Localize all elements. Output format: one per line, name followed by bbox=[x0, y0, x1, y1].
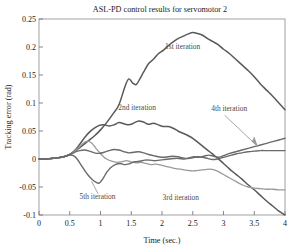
x-axis-label: Time (sec.) bbox=[144, 236, 181, 245]
x-tick-label: 2.5 bbox=[188, 219, 198, 228]
x-tick-label: 4 bbox=[283, 219, 287, 228]
annotation-3rd-iteration: 3rd iteration bbox=[163, 193, 200, 202]
annotation-1st-iteration: 1st iteration bbox=[165, 42, 200, 51]
y-tick-label: 0.1 bbox=[26, 99, 36, 108]
chart-title: ASL-PD control results for servomotor 2 bbox=[93, 5, 227, 14]
y-tick-label: 0.2 bbox=[26, 43, 36, 52]
x-tick-label: 3.5 bbox=[249, 219, 259, 228]
x-tick-label: 0 bbox=[37, 219, 41, 228]
y-tick-label: 0.15 bbox=[22, 71, 36, 80]
x-tick-label: 3 bbox=[222, 219, 226, 228]
annotation-2nd-iteration: 2nd iteration bbox=[118, 103, 156, 112]
x-tick-label: 1.5 bbox=[126, 219, 136, 228]
annotation-4th-iteration: 4th iteration bbox=[211, 104, 247, 113]
chart-container: ASL-PD control results for servomotor 2 … bbox=[0, 0, 292, 248]
y-tick-label: -0.1 bbox=[23, 211, 36, 220]
x-tick-label: 0.5 bbox=[65, 219, 75, 228]
x-tick-label: 2 bbox=[160, 219, 164, 228]
y-tick-label: -0.05 bbox=[19, 183, 36, 192]
x-tick-label: 1 bbox=[99, 219, 103, 228]
y-tick-label: 0.05 bbox=[22, 127, 36, 136]
y-tick-label: 0.25 bbox=[22, 15, 36, 24]
tracking-error-line-chart: ASL-PD control results for servomotor 2 … bbox=[0, 0, 292, 248]
y-tick-label: 0 bbox=[32, 155, 36, 164]
y-axis-label: Tracking error (rad) bbox=[4, 84, 13, 149]
